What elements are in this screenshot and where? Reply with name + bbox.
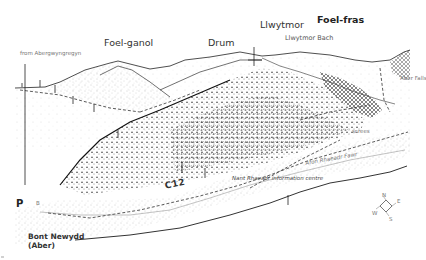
compass-n: N [382,192,386,198]
peak-label-foel-fras: Foel-fras [317,15,364,25]
peak-label-foel-ganol: Foel-ganol [104,38,153,48]
peak-label-llwytmor: Llwytmor [260,20,304,30]
compass-icon [376,196,396,216]
road-number-label: B [36,200,40,206]
compass-s: S [389,216,393,222]
compass-w: W [372,210,377,216]
compass-e: E [397,198,400,204]
aber-falls-label: Aber Falls [400,75,422,81]
from-abergwyngregyn-label: from Abergwyngregyn [20,50,75,56]
bridge-label: Bont Newydd (Aber) [28,232,84,250]
peak-label-drum: Drum [208,38,235,48]
screes-label: screes [352,128,370,134]
info-centre-label: Nant Rhaeadr information centre [232,175,292,181]
bridge-label-line1: Bont Newydd [28,232,84,241]
peak-label-llwytmor-bach: Llwytmor Bach [285,35,325,42]
parking-icon: P [16,199,23,209]
bridge-label-line2: (Aber) [28,241,84,250]
llwytmor-bach-text: Llwytmor Bach [285,34,333,42]
